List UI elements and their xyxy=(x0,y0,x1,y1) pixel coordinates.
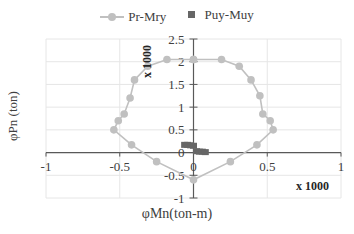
data-point-marker xyxy=(110,126,118,134)
legend-label: Pr-Mry xyxy=(128,9,166,25)
y-tick-label: 1.5 xyxy=(168,77,184,92)
data-point-marker xyxy=(256,92,264,100)
data-point-marker xyxy=(190,56,198,64)
data-point-marker xyxy=(114,117,122,125)
x-tick-label: 1 xyxy=(338,159,345,174)
x-tick-label: -1 xyxy=(41,159,52,174)
data-point-square xyxy=(190,143,197,149)
square-marker-icon xyxy=(188,11,195,18)
data-point-marker xyxy=(269,126,277,134)
data-point-marker xyxy=(120,110,128,118)
data-point-marker xyxy=(227,158,235,166)
y-tick-label: -1 xyxy=(174,191,185,206)
x-tick-label: 0.5 xyxy=(259,159,275,174)
legend-item-pr-mry: Pr-Mry xyxy=(100,9,166,25)
line-circle-marker-icon xyxy=(100,16,124,18)
data-point-marker xyxy=(247,76,255,84)
legend-item-puy-muy: Puy-Muy xyxy=(188,7,254,23)
legend-label: Puy-Muy xyxy=(205,7,254,23)
plot-area: -1-0.500.51-1-0.500.511.522.5 xyxy=(0,0,354,234)
data-point-marker xyxy=(253,141,261,149)
y-tick-label: 2.5 xyxy=(168,32,184,47)
data-point-marker xyxy=(128,141,136,149)
y-tick-label: 0.5 xyxy=(168,122,184,137)
data-point-marker xyxy=(259,110,267,118)
data-point-marker xyxy=(190,176,198,184)
legend: Pr-Mry Puy-Muy xyxy=(0,6,354,25)
x-tick-label: 0 xyxy=(190,159,197,174)
y-axis-multiplier: x 1000 xyxy=(140,45,155,78)
data-point-marker xyxy=(126,94,134,102)
data-point-marker xyxy=(131,76,139,84)
data-point-marker xyxy=(266,117,274,125)
x-axis-multiplier: x 1000 xyxy=(296,179,329,194)
y-tick-label: 1 xyxy=(178,100,185,115)
data-point-square xyxy=(202,149,209,155)
data-point-marker xyxy=(153,158,161,166)
y-axis-title: φPn (ton) xyxy=(5,81,21,151)
chart-container: -1-0.500.51-1-0.500.511.522.5 Pr-Mry Puy… xyxy=(0,0,354,234)
x-tick-label: -0.5 xyxy=(109,159,130,174)
data-point-marker xyxy=(235,62,243,70)
x-axis-title: φMn(ton-m) xyxy=(0,206,354,222)
data-point-marker xyxy=(218,56,226,64)
data-point-marker xyxy=(163,56,171,64)
y-tick-label: 2 xyxy=(178,54,185,69)
